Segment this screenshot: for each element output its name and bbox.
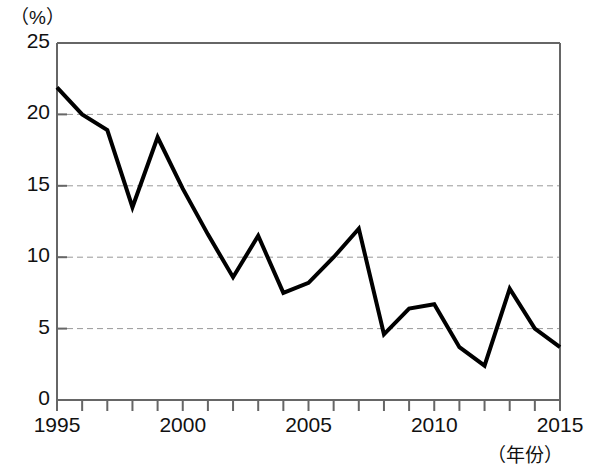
x-axis-ticks [57,400,560,411]
y-axis-tick-label: 20 [4,100,50,124]
data-line [57,87,560,365]
x-axis-tick-label: 2005 [269,413,349,437]
y-axis-tick-label: 5 [4,315,50,339]
x-axis-tick-label: 2000 [143,413,223,437]
gridlines [57,114,560,328]
x-axis-tick-label: 1995 [17,413,97,437]
y-axis-tick-label: 0 [4,386,50,410]
plot-frame [57,43,560,400]
y-axis-tick-label: 15 [4,172,50,196]
y-axis-tick-label: 10 [4,243,50,267]
plot-canvas [0,0,597,476]
data-series [57,87,560,365]
x-axis-tick-label: 2010 [394,413,474,437]
x-axis-tick-label: 2015 [520,413,597,437]
line-chart: （%） （年份） 0510152025 19952000200520102015 [0,0,597,476]
y-axis-tick-label: 25 [4,29,50,53]
